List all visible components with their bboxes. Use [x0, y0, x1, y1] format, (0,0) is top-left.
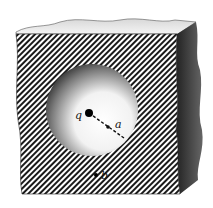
charge-label: q: [75, 109, 82, 122]
block-top-face: [16, 19, 196, 34]
radius-label: a: [115, 118, 122, 131]
block-side-face: [176, 22, 203, 194]
point-charge-icon: [85, 109, 93, 117]
diagram-canvas: q a b: [0, 0, 213, 208]
point-b-dot: [94, 173, 98, 177]
spherical-cavity: [46, 64, 138, 156]
point-b-label: b: [101, 169, 108, 182]
radius-midpoint-dot: [106, 125, 110, 129]
